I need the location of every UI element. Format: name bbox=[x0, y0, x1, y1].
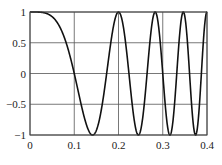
x-tick-label: 0.2 bbox=[112, 139, 126, 151]
y-tick-label: 0.5 bbox=[12, 37, 26, 49]
x-tick-label: 0.1 bbox=[67, 139, 81, 151]
y-axis-tick-labels: 10.50−0.5−1 bbox=[6, 6, 26, 141]
x-tick-label: 0 bbox=[27, 139, 33, 151]
y-tick-label: 0 bbox=[21, 68, 27, 80]
chirp-chart: 00.10.20.30.4 10.50−0.5−1 bbox=[0, 0, 222, 165]
x-tick-label: 0.4 bbox=[200, 139, 214, 151]
x-tick-label: 0.3 bbox=[156, 139, 170, 151]
y-tick-label: −0.5 bbox=[6, 98, 26, 110]
x-axis-tick-labels: 00.10.20.30.4 bbox=[27, 139, 214, 151]
y-tick-label: 1 bbox=[21, 6, 27, 18]
y-tick-label: −1 bbox=[14, 129, 26, 141]
